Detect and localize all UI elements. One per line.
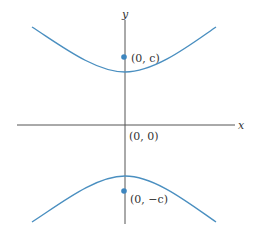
focus-top-point <box>121 54 127 60</box>
focus-top-label: (0, c) <box>131 52 160 65</box>
focus-bottom-label: (0, −c) <box>130 193 168 206</box>
origin-label: (0, 0) <box>129 130 159 143</box>
y-axis-label: y <box>121 8 129 21</box>
hyperbola-upper-branch <box>32 27 216 72</box>
hyperbola-lower-branch <box>32 176 216 222</box>
x-axis-label: x <box>238 119 245 132</box>
hyperbola-diagram: y x (0, c) (0, 0) (0, −c) <box>0 0 257 230</box>
focus-bottom-point <box>121 188 127 194</box>
